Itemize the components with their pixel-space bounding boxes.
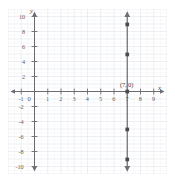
coordinate-plane-figure: 10 8 6 4 2 -2 -4 -6 -8 -10 -1 0 1 2 3 4 …: [0, 0, 175, 183]
y-tick-label-10: 10: [19, 14, 25, 20]
data-point: [125, 23, 129, 27]
x-tick-label-1: 1: [46, 96, 49, 102]
data-point: [125, 128, 129, 132]
y-tick-label-6: 6: [22, 44, 25, 50]
axes-and-data: [8, 9, 167, 174]
point-annotation-7-0: (7, 0): [120, 82, 133, 88]
y-axis-label: y: [30, 9, 33, 15]
y-tick-label-neg2: -2: [19, 104, 24, 110]
x-tick-label-2: 2: [59, 96, 62, 102]
x-tick-label-neg1: -1: [19, 96, 24, 102]
y-tick-label-8: 8: [22, 29, 25, 35]
y-tick-label-neg6: -6: [19, 134, 24, 140]
data-point: [125, 158, 129, 162]
origin-label: 0: [28, 96, 31, 103]
x-tick-label-7: 7: [126, 96, 129, 102]
x-tick-label-4: 4: [86, 96, 89, 102]
data-point: [125, 90, 129, 94]
y-tick-label-2: 2: [22, 74, 25, 80]
y-tick-label-neg4: -4: [19, 119, 24, 125]
plot-area: 10 8 6 4 2 -2 -4 -6 -8 -10 -1 0 1 2 3 4 …: [8, 9, 167, 174]
y-tick-label-neg8: -8: [19, 149, 24, 155]
x-tick-label-5: 5: [99, 96, 102, 102]
x-tick-label-8: 8: [139, 96, 142, 102]
x-tick-label-9: 9: [152, 96, 155, 102]
x-axis-label: x: [158, 85, 161, 92]
data-point: [125, 53, 129, 57]
y-tick-label-4: 4: [22, 59, 25, 65]
x-tick-label-3: 3: [73, 96, 76, 102]
x-tick-label-6: 6: [112, 96, 115, 102]
y-tick-label-neg10: -10: [16, 164, 24, 170]
